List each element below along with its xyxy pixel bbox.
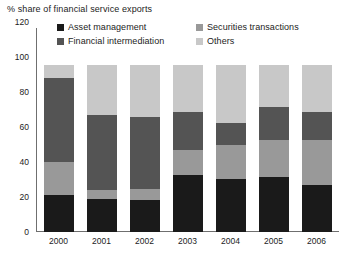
bar-stack-2006 xyxy=(302,65,332,232)
bar-segment xyxy=(216,145,246,178)
bar-segment xyxy=(259,177,289,232)
y-axis-tick-label: 0 xyxy=(24,228,29,237)
y-axis-tick-label: 20 xyxy=(20,193,29,202)
bar-segment xyxy=(173,112,203,150)
bar-segment xyxy=(173,175,203,232)
bar-segment xyxy=(44,78,74,162)
bar-stack-segments xyxy=(44,65,74,232)
bar-segment xyxy=(44,195,74,232)
bar-segment xyxy=(44,162,74,195)
bar-segment xyxy=(173,65,203,112)
bar-stack-2001 xyxy=(87,65,117,232)
x-axis-tick-label: 2005 xyxy=(264,236,283,246)
bar-stack-2000 xyxy=(44,65,74,232)
x-axis: 2000200120022003200420052006 xyxy=(37,236,338,250)
bar-stack-segments xyxy=(130,65,160,232)
x-axis-tick-label: 2003 xyxy=(178,236,197,246)
x-axis-tick-label: 2001 xyxy=(92,236,111,246)
bar-segment xyxy=(216,65,246,123)
bar-segment xyxy=(87,65,117,115)
bar-segment xyxy=(259,140,289,177)
y-axis-tick-label: 60 xyxy=(20,123,29,132)
bar-segment xyxy=(216,123,246,145)
bar-stack-2004 xyxy=(216,65,246,232)
bar-segment xyxy=(302,140,332,185)
bar-stack-2002 xyxy=(130,65,160,232)
x-axis-tick-label: 2006 xyxy=(307,236,326,246)
y-axis: 020406080100120 xyxy=(0,22,34,232)
bar-segment xyxy=(87,199,117,232)
y-axis-tick-label: 40 xyxy=(20,158,29,167)
y-axis-tick-label: 80 xyxy=(20,88,29,97)
bars-area xyxy=(37,65,338,232)
bar-segment xyxy=(302,185,332,232)
chart-title: % share of financial service exports xyxy=(7,4,152,15)
bar-segment xyxy=(259,65,289,107)
y-axis-tick-label: 100 xyxy=(15,53,29,62)
bar-segment xyxy=(130,65,160,117)
bar-stack-2005 xyxy=(259,65,289,232)
stacked-bar-chart: % share of financial service exports Ass… xyxy=(0,0,345,260)
bar-stack-2003 xyxy=(173,65,203,232)
bar-segment xyxy=(302,65,332,112)
bar-segment xyxy=(87,115,117,190)
bar-segment xyxy=(216,179,246,232)
bar-segment xyxy=(44,65,74,78)
bar-segment xyxy=(130,200,160,232)
bar-stack-segments xyxy=(302,65,332,232)
bar-segment xyxy=(130,117,160,189)
bar-stack-segments xyxy=(259,65,289,232)
bar-segment xyxy=(87,190,117,198)
bar-stack-segments xyxy=(216,65,246,232)
bar-segment xyxy=(259,107,289,140)
bar-stack-segments xyxy=(173,65,203,232)
bar-segment xyxy=(130,189,160,201)
x-axis-tick-label: 2000 xyxy=(49,236,68,246)
bar-segment xyxy=(302,112,332,140)
y-axis-tick-label: 120 xyxy=(15,18,29,27)
bar-segment xyxy=(173,150,203,175)
bar-stack-segments xyxy=(87,65,117,232)
x-axis-tick-label: 2002 xyxy=(135,236,154,246)
x-axis-tick-label: 2004 xyxy=(221,236,240,246)
